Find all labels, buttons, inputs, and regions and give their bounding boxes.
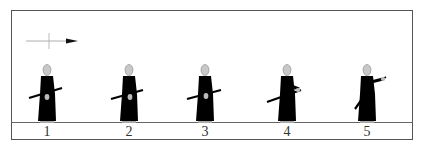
figure-step-4 [265,64,309,124]
figure-step-3 [183,64,227,124]
direction-arrow-icon [26,33,78,49]
figure-step-2 [107,64,151,124]
figure-step-1 [25,64,69,124]
figure-step-5 [345,64,389,124]
step-number-1: 1 [37,124,57,140]
step-number-2: 2 [119,124,139,140]
step-number-3: 3 [195,124,215,140]
step-number-4: 4 [277,124,297,140]
step-number-5: 5 [357,124,377,140]
